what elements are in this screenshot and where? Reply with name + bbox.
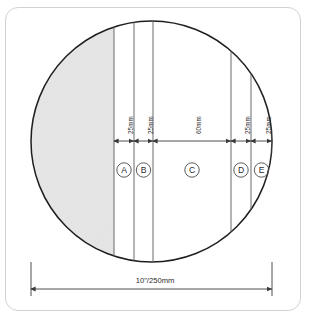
zone-label-e: E	[255, 163, 269, 177]
shaded-region	[28, 18, 114, 266]
segment-label-a: 25mm	[127, 116, 134, 134]
segment-label-e: 25mm	[265, 116, 272, 134]
zone-label-c: C	[185, 163, 199, 177]
zone-divider-lines	[114, 15, 272, 270]
segment-label-c: 60mm	[195, 116, 202, 134]
zone-label-d: D	[234, 163, 248, 177]
diagram-canvas: 25mm 25mm 60mm 25mm 25mm A B C D E 10"/2…	[0, 0, 310, 322]
overall-dimension-label: 10"/250mm	[136, 276, 175, 285]
disc-drawing	[0, 0, 310, 322]
segment-label-b: 25mm	[147, 116, 154, 134]
zone-label-b: B	[137, 163, 151, 177]
zone-label-a: A	[117, 163, 131, 177]
segment-label-d: 25mm	[244, 116, 251, 134]
